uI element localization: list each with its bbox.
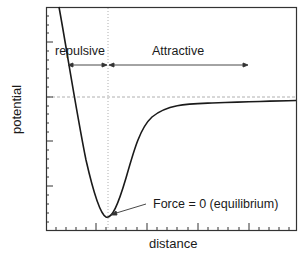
equilibrium-label: Force = 0 (equilibrium) — [153, 197, 278, 211]
attractive-arrow — [109, 63, 248, 67]
attractive-label: Attractive — [152, 44, 204, 58]
potential-curve — [59, 7, 296, 217]
x-axis-label: distance — [149, 236, 197, 251]
repulsive-arrow — [68, 63, 107, 67]
x-axis-ticks — [56, 223, 289, 230]
potential-energy-chart — [0, 0, 308, 259]
y-axis-label: potential — [9, 80, 24, 140]
repulsive-label: repulsive — [55, 44, 105, 58]
